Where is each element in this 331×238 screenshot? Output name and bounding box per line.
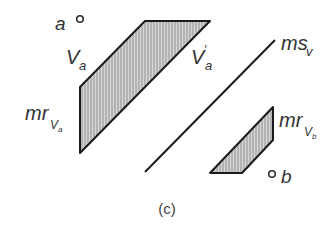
svg-text:b: b <box>312 132 317 141</box>
point-a-marker <box>77 16 84 23</box>
svg-text:a: a <box>205 58 212 73</box>
svg-text:a: a <box>79 58 86 73</box>
label-va-prime: V ′ a <box>191 43 212 73</box>
label-va: V a <box>66 46 86 73</box>
svg-text:mr: mr <box>279 109 304 131</box>
point-b-marker <box>269 171 276 178</box>
label-mr-vb: mr V b <box>279 109 317 141</box>
point-b-label: b <box>281 166 292 187</box>
svg-text:v: v <box>306 44 314 59</box>
figure-caption: (c) <box>158 200 176 217</box>
svg-text:a: a <box>58 125 63 134</box>
diagram-canvas: a b V a V ′ a ms v mr V a mr V b (c) <box>0 0 331 238</box>
label-mr-va: mr V a <box>25 102 63 134</box>
region-va <box>80 21 210 153</box>
svg-text:mr: mr <box>25 102 50 124</box>
region-vb <box>210 107 273 173</box>
label-ms-v: ms v <box>281 32 314 59</box>
svg-text:ms: ms <box>281 32 308 54</box>
svg-text:′: ′ <box>204 43 207 57</box>
point-a-label: a <box>55 13 66 34</box>
